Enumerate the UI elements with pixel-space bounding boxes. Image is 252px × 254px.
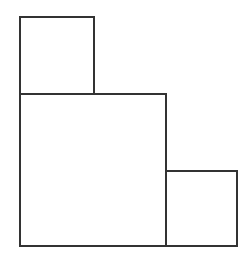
large-square bbox=[20, 94, 166, 246]
top-small-square bbox=[20, 17, 94, 94]
right-small-square bbox=[166, 171, 237, 246]
squares-diagram bbox=[0, 0, 252, 254]
